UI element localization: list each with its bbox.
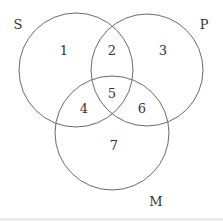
region-2-label: 2 [108, 43, 116, 58]
region-4-label: 4 [80, 101, 88, 116]
region-1-label: 1 [60, 43, 68, 58]
set-p-label: P [200, 17, 209, 32]
set-s-label: S [14, 17, 23, 32]
bottom-divider [0, 218, 223, 221]
set-p-circle [91, 14, 203, 126]
venn-diagram: S P M 1 2 3 4 5 6 7 [0, 0, 223, 221]
region-3-label: 3 [159, 43, 167, 58]
set-s-circle [19, 13, 133, 127]
region-5-label: 5 [108, 86, 116, 101]
region-6-label: 6 [138, 101, 146, 116]
set-m-label: M [149, 194, 162, 209]
region-7-label: 7 [110, 138, 118, 153]
